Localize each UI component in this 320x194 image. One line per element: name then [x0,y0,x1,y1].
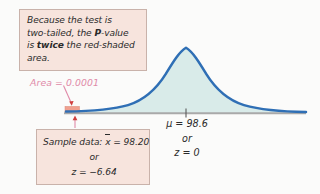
sample-connector: or [43,150,145,165]
center-z-label: z = 0 [146,146,228,161]
explanation-line-3-a: is [27,40,37,50]
explanation-line-3: is twice the red-shaded [27,39,140,52]
center-connector: or [146,132,228,147]
sample-z-equation: z = −6.64 [43,165,145,180]
figure-canvas: Because the test is two-tailed, the P-va… [0,0,320,194]
explanation-line-1: Because the test is [27,14,140,27]
mu-label: μ = 98.6 [146,117,228,132]
xbar-symbol: x [105,135,110,150]
area-pointer-arrow [64,86,74,106]
explanation-line-3-b: the red-shaded [64,40,135,50]
explanation-line-2: two-tailed, the P-value [27,27,140,40]
sample-data-callout: Sample data: x = 98.20 or z = −6.64 [36,129,150,185]
twice-emphasis: twice [37,40,64,50]
sample-data-label: Sample data: [43,137,102,147]
sample-pointer-arrow [73,116,78,128]
explanation-line-2-a: two-tailed, the [27,28,94,38]
sample-data-line: Sample data: x = 98.20 [43,135,145,150]
center-axis-labels: μ = 98.6 or z = 0 [146,117,228,161]
p-value-emphasis: P [94,28,101,38]
explanation-line-2-b: -value [101,28,129,38]
area-label: Area = 0.0001 [30,77,99,88]
xbar-equation: = 98.20 [110,137,149,147]
explanation-callout: Because the test is two-tailed, the P-va… [19,9,147,71]
explanation-line-4: area. [27,52,140,65]
